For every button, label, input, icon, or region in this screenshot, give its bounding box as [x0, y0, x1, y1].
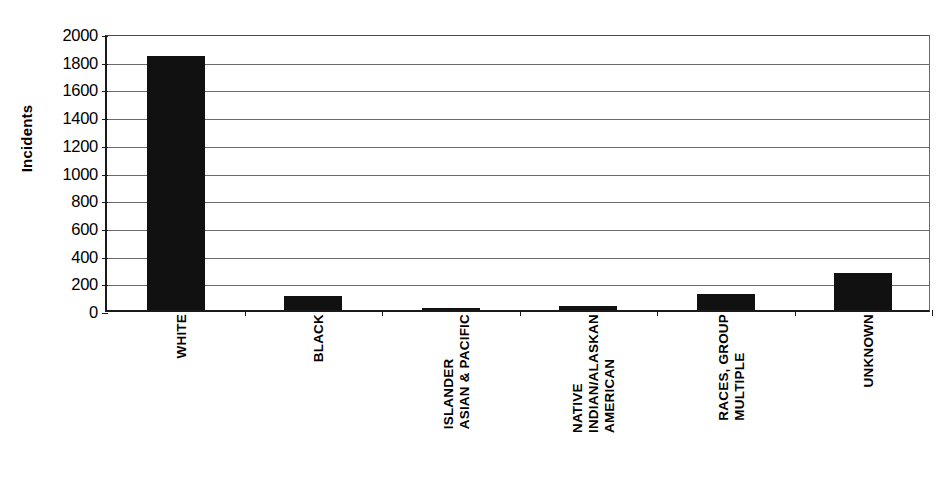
clipped-header-text	[0, 0, 952, 8]
x-axis-label-line: NATIVE	[570, 314, 586, 433]
bar-chart: Incidents 200018001600140012001000800600…	[0, 0, 952, 490]
x-axis-label: AMERICANINDIAN/ALASKANNATIVE	[570, 314, 618, 433]
x-axis-label-line: AMERICAN	[602, 314, 618, 433]
x-axis-label-line: UNKNOWN	[861, 314, 877, 387]
y-tick-label: 200	[30, 276, 98, 293]
x-axis-label-line: RACES, GROUP	[716, 314, 732, 421]
x-axis-label-line: ISLANDER	[441, 314, 457, 429]
bar[interactable]	[559, 306, 617, 310]
x-axis-label-line: WHITE	[174, 314, 190, 359]
x-tick-mark	[932, 310, 933, 316]
x-axis-label: MULTIPLERACES, GROUP	[716, 314, 748, 421]
x-axis-label: ASIAN & PACIFICISLANDER	[441, 314, 473, 429]
bar[interactable]	[834, 273, 892, 310]
y-tick-label: 0	[30, 304, 98, 321]
bar[interactable]	[284, 296, 342, 310]
x-axis-label-line: INDIAN/ALASKAN	[586, 314, 602, 433]
x-axis-label: BLACK	[311, 314, 327, 362]
x-axis-label-line: MULTIPLE	[732, 314, 748, 421]
y-tick-label: 1600	[30, 82, 98, 99]
bar[interactable]	[422, 308, 480, 310]
y-tick-label: 1800	[30, 54, 98, 71]
bar-series	[107, 36, 929, 310]
bar[interactable]	[147, 56, 205, 310]
x-axis-label: WHITE	[174, 314, 190, 359]
y-tick-label: 1200	[30, 138, 98, 155]
y-tick-label: 600	[30, 221, 98, 238]
x-axis-category-labels: WHITEBLACKASIAN & PACIFICISLANDERAMERICA…	[105, 314, 930, 490]
y-tick-label: 800	[30, 193, 98, 210]
x-axis-label-line: ASIAN & PACIFIC	[457, 314, 473, 429]
x-axis-label-line: BLACK	[311, 314, 327, 362]
bar[interactable]	[697, 294, 755, 310]
y-tick-label: 1400	[30, 110, 98, 127]
y-axis-tick-labels: 2000180016001400120010008006004002000	[30, 35, 98, 312]
x-axis-label: UNKNOWN	[861, 314, 877, 387]
y-tick-label: 1000	[30, 165, 98, 182]
plot-area	[105, 35, 930, 312]
y-tick-label: 2000	[30, 27, 98, 44]
y-tick-label: 400	[30, 248, 98, 265]
